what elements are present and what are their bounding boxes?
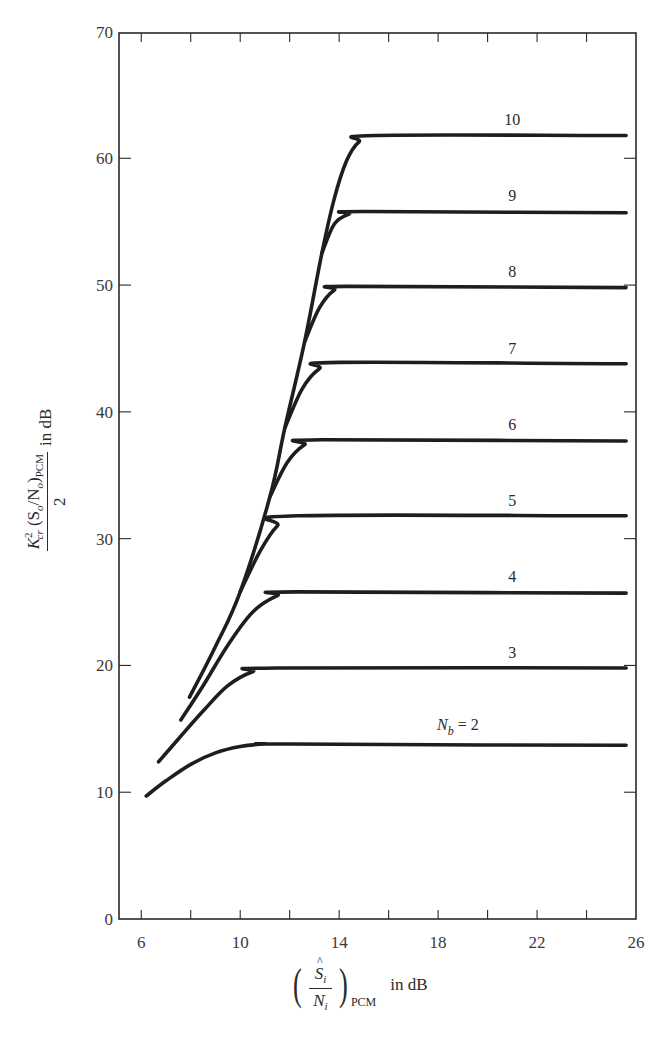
curve-label: Nb = 2 [436,716,479,738]
y-tick-label: 0 [105,910,114,929]
curve-label: 5 [508,492,516,509]
curve-label: 6 [508,416,516,433]
x-label-unit: in dB [390,975,427,995]
curve-nb-4 [181,592,626,720]
x-label-close-paren: ) [339,963,348,1007]
y-tick-label: 70 [96,23,113,42]
curve-label: 7 [508,340,516,357]
x-label-pcm: PCM [351,995,376,1010]
y-tick-label: 40 [96,403,113,422]
x-tick-label: 10 [232,933,249,952]
y-tick-label: 20 [96,656,113,675]
curve-label: 4 [508,568,516,585]
curve-label: 3 [508,644,516,661]
x-tick-label: 18 [430,933,447,952]
x-tick-label: 6 [137,933,146,952]
curve-label: 8 [508,263,516,280]
curve-nb-7 [285,362,626,428]
y-tick-label: 30 [96,530,113,549]
axis-ticks [119,33,636,919]
y-label-unit: in dB [36,409,56,446]
y-tick-label: 50 [96,276,113,295]
tick-labels: 61014182226010203040506070 [96,23,645,953]
curve-nb-8 [305,286,627,342]
x-tick-label: 22 [529,933,546,952]
y-label-fraction: K2cr (So/No)PCM 2 [22,452,70,551]
x-tick-label: 14 [331,933,349,952]
y-label-numerator: K2cr (So/No)PCM [22,452,48,551]
curve-nb-6 [270,440,626,497]
curve-labels: Nb = 2345678910 [436,111,520,738]
y-tick-label: 10 [96,783,113,802]
x-tick-label: 26 [628,933,645,952]
curve-nb-9 [322,212,626,254]
curve-label: 9 [508,187,516,204]
plot-frame [119,33,636,919]
curve-nb-10 [190,135,627,697]
y-tick-label: 60 [96,149,113,168]
plot-border [119,33,636,919]
y-label-denominator: 2 [48,497,70,506]
x-label-open-paren: ( [293,963,302,1007]
x-axis-label: ( Si Ni ) PCM in dB [290,955,428,1015]
curve-nb-2 [146,744,626,796]
curve-nb-5 [240,515,626,592]
x-label-fraction: Si Ni [309,958,333,1012]
y-axis-label: K2cr (So/No)PCM 2 in dB [16,360,76,600]
line-chart: 61014182226010203040506070 Nb = 23456789… [0,0,668,1044]
curves [146,135,626,796]
curve-label: 10 [504,111,520,128]
